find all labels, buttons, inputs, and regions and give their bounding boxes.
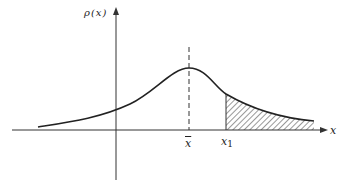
density-plot-svg — [0, 0, 340, 185]
x-axis-arrow-icon — [320, 127, 328, 133]
x-axis-label: x — [330, 125, 336, 136]
density-diagram: ρ(x) x x x1 — [0, 0, 340, 185]
threshold-label-subscript: 1 — [227, 139, 233, 149]
y-axis-arrow-icon — [113, 7, 119, 15]
threshold-label: x1 — [221, 136, 233, 149]
mean-label: x — [185, 138, 191, 149]
shaded-tail-region — [226, 90, 316, 130]
y-axis-label: ρ(x) — [84, 8, 107, 18]
